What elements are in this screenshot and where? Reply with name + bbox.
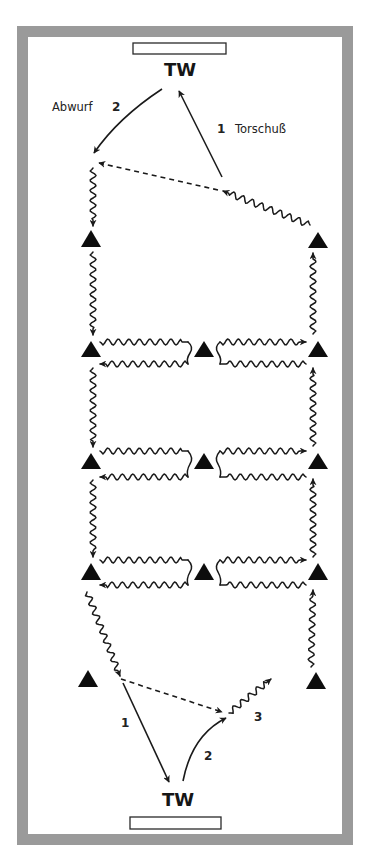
bottom-goal (130, 817, 221, 829)
bottom-step-2-label: 2 (204, 749, 212, 763)
abwurf-label: Abwurf (52, 100, 94, 114)
goalkeeper-top-label: TW (164, 59, 196, 80)
bottom-step-3-label: 3 (254, 710, 262, 724)
top-goal (133, 43, 226, 54)
torschuss-label: Torschuß (234, 122, 286, 136)
abwurf-step-number: 2 (112, 100, 120, 114)
torschuss-step-number: 1 (217, 122, 225, 136)
bottom-step-1-label: 1 (121, 716, 129, 730)
training-drill-diagram: TW TW Abwurf 2 1 Torschuß 1 2 3 (0, 0, 374, 858)
goalkeeper-bottom-label: TW (162, 789, 194, 810)
field-area (28, 37, 342, 834)
